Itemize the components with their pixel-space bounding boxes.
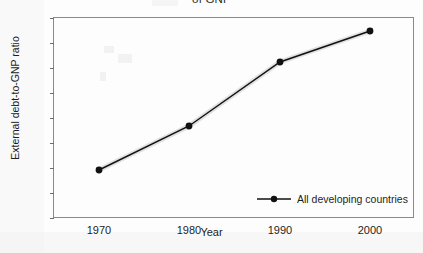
legend-line-marker-icon <box>257 194 291 204</box>
plot-area: 40 35 30 25 20 15 10 5 0 1970 1980 1990 … <box>53 17 414 218</box>
series-all-developing-countries <box>54 18 415 219</box>
series-line-shadow <box>99 31 370 170</box>
legend-label: All developing countries <box>297 193 408 205</box>
data-point <box>367 28 374 35</box>
data-point <box>186 123 193 130</box>
chart-title: of GNP <box>0 0 423 5</box>
data-point <box>96 167 103 174</box>
y-axis-title: External debt-to-GNP ratio <box>9 0 21 198</box>
chart-figure: of GNP External debt-to-GNP ratio 40 35 … <box>0 0 423 253</box>
scan-artifact <box>0 0 44 253</box>
legend: All developing countries <box>257 193 408 205</box>
data-point <box>277 59 284 66</box>
x-axis-title: Year <box>0 226 423 238</box>
